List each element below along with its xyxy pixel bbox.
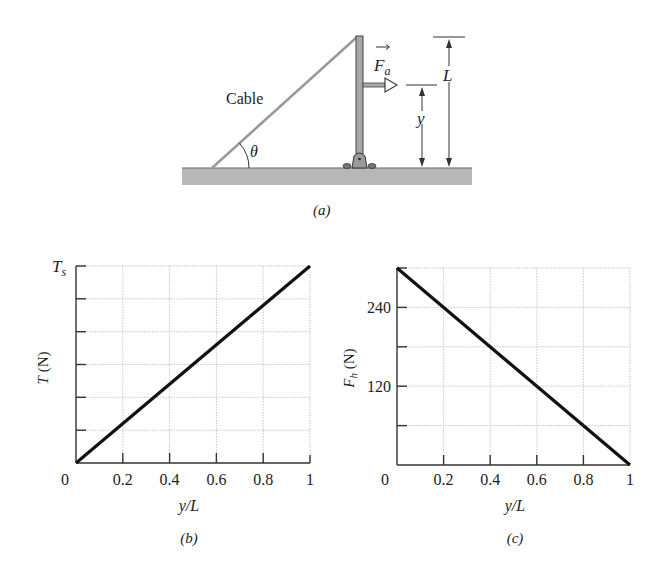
- angle-label: θ: [250, 143, 258, 160]
- y-label: y: [415, 109, 425, 128]
- pole: [356, 36, 363, 154]
- L-dimension: [433, 37, 465, 167]
- chart-c-ytick-240: 240: [367, 299, 391, 316]
- chart-c-xticks: 0 0.2 0.4 0.6 0.8 1: [381, 471, 634, 488]
- svg-text:0.6: 0.6: [527, 471, 547, 488]
- chart-c-series-Fh: [397, 268, 630, 465]
- svg-text:0.2: 0.2: [434, 471, 454, 488]
- chart-b-series-T: [76, 266, 310, 463]
- svg-text:0.8: 0.8: [573, 471, 593, 488]
- chart-b-ytop-label: Ts: [52, 257, 66, 279]
- chart-c-caption: (c): [507, 530, 524, 547]
- figure-canvas: Cable θ Fa y L (a): [0, 0, 648, 562]
- vector-arrow-icon: [376, 45, 390, 50]
- svg-text:0.4: 0.4: [480, 471, 500, 488]
- svg-text:0: 0: [61, 471, 69, 488]
- svg-text:0.4: 0.4: [160, 471, 180, 488]
- svg-text:0.2: 0.2: [113, 471, 133, 488]
- svg-text:0.8: 0.8: [253, 471, 273, 488]
- L-label: L: [442, 66, 452, 85]
- figure-a-diagram: Cable θ Fa y L (a): [182, 36, 472, 219]
- svg-text:1: 1: [306, 471, 314, 488]
- force-arrow: [363, 78, 397, 92]
- cable-label: Cable: [226, 90, 263, 107]
- force-label: Fa: [373, 56, 390, 78]
- chart-c: 240 120 Fh (N) 0 0.2 0.4 0.6 0.8 1 y/L (…: [341, 268, 634, 547]
- svg-text:0: 0: [381, 471, 389, 488]
- chart-b-xlabel: y/L: [177, 497, 200, 515]
- chart-c-ylabel: Fh (N): [341, 348, 359, 388]
- svg-text:1: 1: [626, 471, 634, 488]
- svg-text:0.6: 0.6: [206, 471, 226, 488]
- chart-c-xlabel: y/L: [503, 497, 526, 515]
- angle-arc: [240, 143, 250, 168]
- chart-b-ylabel: T (N): [35, 352, 52, 385]
- ground: [182, 168, 472, 185]
- chart-b: Ts T (N) 0 0.2 0.4 0.6 0.8 1 y/L (b): [35, 257, 314, 547]
- chart-c-ytick-120: 120: [367, 378, 391, 395]
- chart-b-caption: (b): [180, 530, 198, 547]
- chart-b-xticks: 0 0.2 0.4 0.6 0.8 1: [61, 471, 314, 488]
- pole-hinge: [352, 153, 367, 168]
- caption-a: (a): [313, 202, 331, 219]
